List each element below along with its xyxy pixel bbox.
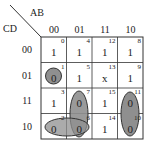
row-header-10: 10 [14,121,40,132]
cell-value: 0 [118,97,144,109]
col-header-00: 00 [41,24,67,35]
row-header-11: 11 [14,95,40,106]
cell-index: 3 [61,88,65,96]
cell-value: 0 [41,123,67,135]
kmap-cell: 12 1 [92,37,118,63]
cell-index: 15 [109,88,116,96]
cell-index: 0 [61,37,65,45]
kmap-cell: 0 1 [41,37,67,63]
cell-value: 0 [41,72,67,84]
cell-index: 9 [138,63,142,71]
kmap-cell: 15 1 [92,88,118,114]
cell-value: 1 [92,46,118,58]
cell-value: 1 [92,97,118,109]
cell-index: 6 [87,114,91,122]
cell-index: 1 [61,63,65,71]
cell-index: 14 [109,114,116,122]
kmap-cell: 7 0 [67,88,93,114]
kmap-cell: 8 1 [118,37,144,63]
cell-value: 1 [41,97,67,109]
cell-value: 0 [67,123,93,135]
col-header-11: 11 [92,24,118,35]
cell-value: 1 [41,46,67,58]
cell-index: 11 [134,88,141,96]
row-header-00: 00 [14,44,40,55]
kmap-cell: 11 0 [118,88,144,114]
kmap-cell: 6 0 [67,114,93,140]
kmap-cell: 1 0 [41,63,67,89]
cell-index: 2 [61,114,65,122]
cell-value: 0 [67,97,93,109]
kmap-cell: 5 1 [67,63,93,89]
row-variable-label: CD [3,23,17,34]
cell-index: 8 [138,37,142,45]
kmap-cell: 3 1 [41,88,67,114]
cell-value: 0 [118,123,144,135]
kmap-grid: 0 1 4 1 12 1 8 1 1 0 5 1 13 x 9 1 3 1 7 … [41,37,143,139]
kmap-cell: 10 0 [118,114,144,140]
cell-index: 5 [87,63,91,71]
cell-index: 10 [134,114,141,122]
kmap-cell: 13 x [92,63,118,89]
cell-index: 12 [109,37,116,45]
col-header-10: 10 [118,24,144,35]
cell-index: 7 [87,88,91,96]
cell-value: 1 [67,72,93,84]
col-variable-label: AB [30,7,44,18]
cell-value: 1 [67,46,93,58]
cell-index: 13 [109,63,116,71]
kmap-cell: 9 1 [118,63,144,89]
kmap-cell: 14 1 [92,114,118,140]
col-header-01: 01 [67,24,93,35]
kmap-cell: 4 1 [67,37,93,63]
cell-value: 1 [118,46,144,58]
kmap-cell: 2 0 [41,114,67,140]
cell-value: x [92,72,118,84]
cell-value: 1 [92,123,118,135]
row-header-01: 01 [14,70,40,81]
cell-value: 1 [118,72,144,84]
cell-index: 4 [87,37,91,45]
